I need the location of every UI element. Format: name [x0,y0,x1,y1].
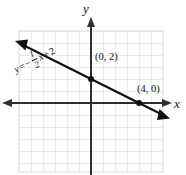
x-axis-label: x [174,96,180,112]
point-label-y-intercept: (0, 2) [95,51,118,62]
y-axis-label: y [83,1,89,17]
point-marker-x-intercept [136,100,142,106]
x-axis-arrow-left-icon [2,99,12,107]
graph-figure: y x (0, 2) (4, 0) y = − 1 2 x + 2 [0,0,186,175]
point-label-x-intercept: (4, 0) [137,83,160,94]
y-axis-arrow-icon [87,17,95,27]
point-marker-y-intercept [88,76,94,82]
x-axis-arrow-right-icon [162,99,172,107]
